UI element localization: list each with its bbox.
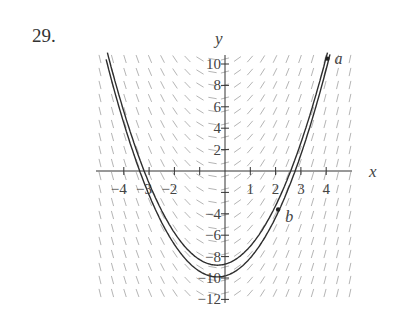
slope-field-figure: 29. −4−3−21234108642−4−6−8−10−12 ab yx [0,0,403,316]
slope-segment [173,134,178,141]
slope-segment [260,289,264,296]
slope-segment [324,198,326,206]
point-a [325,56,329,60]
slope-segment [148,55,151,63]
slope-segment [234,148,241,153]
slope-segment [208,136,216,137]
slope-segment [311,68,313,76]
slope-segment [273,263,277,271]
slope-segment [311,146,313,154]
slope-segment [208,175,216,176]
slope-segment [273,120,277,128]
slope-segment [299,94,302,102]
slope-segment [349,263,351,271]
slope-segment [247,82,253,88]
slope-field-plot: −4−3−21234108642−4−6−8−10−12 ab yx [0,0,403,316]
slope-segment [273,146,277,154]
slope-segment [260,211,264,218]
slope-segment [136,81,139,89]
slope-segment [99,276,101,284]
slope-segment [260,250,264,257]
slope-segment [324,159,326,167]
y-tick-label: −8 [205,249,221,265]
slope-segment [234,278,241,283]
slope-segment [324,120,326,128]
slope-segment [286,81,289,89]
slope-segment [148,289,151,297]
slope-segment [247,95,253,101]
slope-segment [173,212,178,219]
slope-segment [349,55,351,63]
slope-segment [311,211,313,219]
slope-segment [185,82,191,88]
slope-segment [286,237,289,245]
slope-segment [173,173,178,180]
slope-segment [196,57,203,61]
slope-segment [349,224,351,232]
slope-segment [337,94,339,102]
slope-segment [299,250,302,258]
slope-segment [208,201,216,202]
slope-segment [260,55,264,62]
slope-segment [311,276,313,284]
slope-segment [337,211,339,219]
slope-segment [124,159,126,167]
slope-segment [185,95,191,101]
slope-segment [234,226,241,231]
slope-segment [196,96,203,100]
slope-segment [124,68,126,76]
slope-segment [349,237,351,245]
slope-segment [99,94,101,102]
slope-segment [299,237,302,245]
slope-segment [148,81,151,89]
slope-segment [324,107,326,115]
slope-segment [124,94,126,102]
slope-segment [148,133,151,141]
slope-segment [324,224,326,232]
slope-segment [185,134,191,140]
slope-segment [99,263,101,271]
slope-segment [247,212,253,218]
slope-segment [247,277,253,283]
slope-segment [234,70,241,75]
slope-segment [136,68,139,76]
slope-segment [234,122,241,127]
slope-segment [136,276,139,284]
slope-segment [173,160,178,167]
slope-segment [185,56,191,62]
slope-segment [111,120,113,128]
slope-segment [136,107,139,115]
slope-segment [148,237,151,245]
slope-segment [161,81,165,88]
slope-segment [136,172,139,180]
slope-segment [324,81,326,89]
slope-segment [337,68,339,76]
slope-segment [148,68,151,76]
slope-segment [99,68,101,76]
slope-segment [111,237,113,245]
slope-segment [111,289,113,297]
slope-segment [161,68,165,75]
slope-segment [337,159,339,167]
slope-segment [185,173,191,179]
y-tick-label: 10 [206,56,221,72]
x-tick-label: 3 [297,181,305,197]
slope-segment [185,147,191,153]
slope-segment [299,55,302,63]
slope-segment [196,70,203,74]
slope-segment [234,239,241,244]
slope-segment [337,198,339,206]
slope-segment [196,135,203,139]
slope-segment [337,289,339,297]
slope-segment [196,187,203,191]
slope-segment [173,95,178,102]
slope-segment [196,226,203,230]
slope-segment [136,250,139,258]
slope-segment [234,213,241,218]
slope-segment [161,276,165,283]
slope-segment [311,237,313,245]
slope-segment [299,276,302,284]
slope-segment [136,55,139,63]
slope-segment [349,107,351,115]
slope-segment [299,120,302,128]
